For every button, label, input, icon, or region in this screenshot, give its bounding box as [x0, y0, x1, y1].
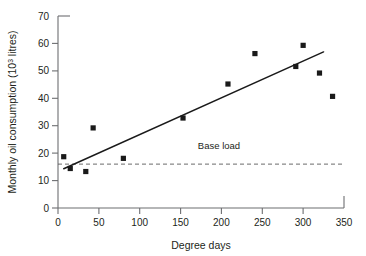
y-tick-label: 20: [38, 148, 50, 159]
y-tick-label: 50: [38, 65, 50, 76]
y-tick-label: 70: [38, 11, 50, 22]
data-point-marker: [252, 51, 257, 56]
y-tick-label: 30: [38, 120, 50, 131]
data-point-marker: [301, 43, 306, 48]
x-tick-label: 150: [172, 217, 189, 228]
x-tick-label: 200: [213, 217, 230, 228]
x-tick-label: 0: [55, 217, 61, 228]
data-point-marker: [225, 81, 230, 86]
x-tick-label: 100: [131, 217, 148, 228]
y-axis-title-tail: litres): [6, 30, 18, 59]
y-tick-label: 60: [38, 38, 50, 49]
oil-consumption-scatter-chart: 0 10 20 30 40 50 60 70: [0, 0, 366, 256]
y-tick-label: 0: [43, 203, 49, 214]
x-tick-label: 300: [295, 217, 312, 228]
x-tick-label: 250: [254, 217, 271, 228]
y-axis-title-main: Monthly oil consumption (10: [6, 63, 18, 194]
x-tick-350: 350: [336, 217, 353, 228]
x-axis-title: Degree days: [171, 239, 231, 251]
data-point-marker: [83, 169, 88, 174]
data-point-marker: [180, 115, 185, 120]
data-point-marker: [91, 125, 96, 130]
y-axis-title: Monthly oil consumption (103 litres): [6, 30, 18, 193]
y-tick-label: 10: [38, 175, 50, 186]
y-tick-label: 40: [38, 93, 50, 104]
x-tick-label: 50: [93, 217, 105, 228]
data-point-marker: [61, 154, 66, 159]
data-point-marker: [68, 166, 73, 171]
data-point-marker: [317, 70, 322, 75]
base-load-label: Base load: [198, 140, 240, 151]
x-tick-label: 350: [336, 217, 353, 228]
y-tick-70: 70: [38, 11, 50, 22]
data-point-marker: [293, 64, 298, 69]
data-point-marker: [121, 156, 126, 161]
data-point-marker: [330, 94, 335, 99]
